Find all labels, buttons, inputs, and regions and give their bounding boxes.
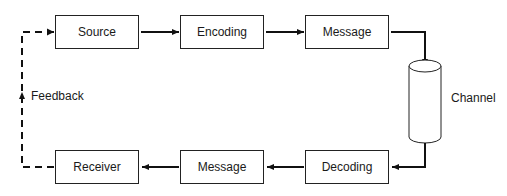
channel-label: Channel xyxy=(451,91,496,105)
node-message-bottom-label: Message xyxy=(198,160,247,174)
arrow-channel-decoding xyxy=(392,143,425,167)
node-decoding-label: Decoding xyxy=(322,160,373,174)
node-source: Source xyxy=(55,15,139,49)
node-message-top: Message xyxy=(305,15,389,49)
feedback-arrowhead-up xyxy=(19,92,25,99)
feedback-arrowhead-source xyxy=(47,29,54,36)
node-message-bottom: Message xyxy=(180,150,264,184)
channel-cylinder xyxy=(409,60,441,143)
feedback-label: Feedback xyxy=(31,89,84,103)
node-receiver: Receiver xyxy=(55,150,139,184)
node-encoding-label: Encoding xyxy=(197,25,247,39)
node-message-top-label: Message xyxy=(323,25,372,39)
node-receiver-label: Receiver xyxy=(73,160,120,174)
node-source-label: Source xyxy=(78,25,116,39)
node-decoding: Decoding xyxy=(305,150,389,184)
node-encoding: Encoding xyxy=(180,15,264,49)
